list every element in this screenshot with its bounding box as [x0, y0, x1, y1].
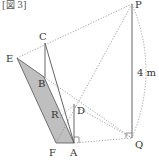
label-b: B	[38, 78, 45, 89]
height-label: 4 m	[137, 67, 157, 78]
dotted-e-p	[17, 4, 132, 58]
label-c: C	[39, 31, 47, 42]
shaded-shadow-region	[17, 58, 74, 143]
right-angle-a	[74, 137, 79, 143]
label-q: Q	[135, 139, 143, 150]
label-r: R	[51, 109, 59, 120]
dotted-p-f	[56, 4, 132, 143]
label-f: F	[49, 147, 56, 158]
label-d: D	[77, 105, 85, 116]
label-a: A	[69, 147, 78, 158]
dotted-a-q	[74, 138, 132, 143]
figure-title: [図 3]	[2, 0, 27, 10]
label-p: P	[135, 0, 142, 10]
geometry-figure: [図 3] P C E B R D F A Q 4 m	[0, 0, 159, 162]
label-e: E	[6, 53, 13, 64]
